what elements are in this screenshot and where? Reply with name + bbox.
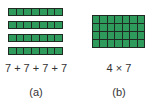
array-grid	[92, 15, 145, 48]
row-bar	[8, 47, 63, 55]
addition-expression: 7 + 7 + 7 + 7	[0, 62, 74, 74]
row-bar	[8, 8, 63, 16]
panel-label-a: (a)	[0, 86, 74, 98]
multiplication-expression: 4 × 7	[81, 62, 152, 74]
row-bar	[8, 34, 63, 42]
row-bar	[8, 21, 63, 29]
panel-label-b: (b)	[81, 86, 152, 98]
